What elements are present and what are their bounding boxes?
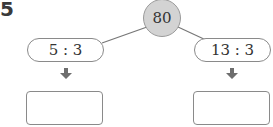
arrow-down-icon [226, 68, 238, 79]
arrow-down-icon [60, 68, 72, 79]
right-ratio: 13 : 3 [211, 41, 254, 59]
total-value: 80 [152, 9, 171, 27]
left-answer-box[interactable] [26, 91, 103, 125]
right-answer-box[interactable] [193, 91, 270, 125]
left-ratio: 5 : 3 [49, 41, 83, 59]
left-ratio-pill: 5 : 3 [27, 38, 104, 62]
total-circle: 80 [143, 0, 181, 37]
right-ratio-pill: 13 : 3 [194, 38, 271, 62]
